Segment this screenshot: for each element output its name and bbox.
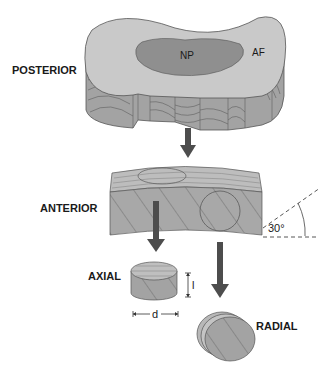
thickness-label: l	[192, 279, 194, 291]
diameter-label: d	[152, 308, 158, 320]
np-label: NP	[180, 50, 194, 61]
axial-label: AXIAL	[88, 270, 121, 282]
anterior-label: ANTERIOR	[40, 202, 98, 214]
radial-label: RADIAL	[256, 320, 298, 332]
af-label: AF	[252, 47, 265, 58]
diameter-dimension: d	[133, 308, 178, 320]
radial-sample	[197, 312, 260, 367]
thickness-dimension: l	[185, 273, 194, 297]
angle-annotation: 30°	[263, 188, 320, 237]
axial-sample	[125, 262, 185, 307]
disc-sampling-diagram: NP AF POSTERIOR ANTERIOR 30°	[0, 0, 327, 367]
down-arrow-1	[180, 128, 196, 158]
angle-label: 30°	[268, 222, 285, 234]
down-arrow-radial	[211, 242, 229, 298]
posterior-label: POSTERIOR	[12, 64, 77, 76]
intervertebral-disc: NP AF	[85, 17, 286, 130]
anterior-block	[100, 167, 280, 251]
